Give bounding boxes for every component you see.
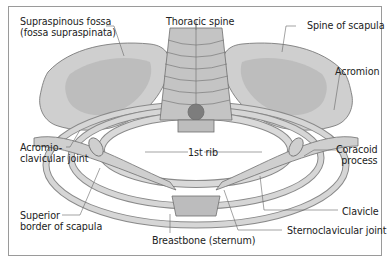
label-thoracic-spine: Thoracic spine (166, 16, 234, 27)
label-sternoclavicular-joint: Sternoclavicular joint (287, 225, 386, 236)
label-acromion: Acromion (335, 66, 379, 77)
sternum (172, 196, 220, 216)
label-breastbone: Breastbone (sternum) (152, 235, 255, 246)
label-supraspinous-fossa: Supraspinous fossa (fossa supraspinata) (20, 16, 116, 38)
label-superior-border-of-scapula: Superior border of scapula (20, 210, 102, 232)
label-coracoid-process: Coracoid process (336, 144, 378, 166)
label-first-rib: 1st rib (188, 147, 218, 158)
label-clavicle: Clavicle (342, 206, 379, 217)
label-spine-of-scapula: Spine of scapula (307, 20, 384, 31)
label-acromioclavicular-joint: Acromio- clavicular joint (20, 142, 89, 164)
